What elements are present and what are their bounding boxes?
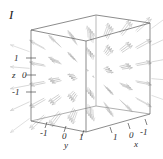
z-tick-label-0: 0 <box>22 71 27 80</box>
x-tick-label-minus1: -1 <box>140 128 148 137</box>
y-axis-label: y <box>64 141 68 150</box>
field-arrow-shaft <box>32 42 46 49</box>
vector-field-arrows <box>11 15 163 133</box>
field-arrow-shaft <box>11 102 29 111</box>
field-arrow-shaft <box>152 95 163 102</box>
x-tick-label-0: 0 <box>129 131 134 140</box>
x-tick-label-1: 1 <box>113 133 118 142</box>
axis-tick-marks <box>26 58 147 136</box>
field-arrow-shaft <box>11 119 29 133</box>
y-tick-label-1: 1 <box>79 133 84 142</box>
field-arrow-shaft <box>11 45 29 52</box>
z-axis-label: z <box>12 71 16 80</box>
field-arrow-head <box>92 53 93 54</box>
field-arrow-head <box>88 92 89 93</box>
x-tick-0 <box>128 123 130 129</box>
x-tick-minus1 <box>145 119 147 125</box>
y-tick-label-minus1: -1 <box>40 129 48 138</box>
field-arrow-shaft <box>30 40 44 48</box>
field-arrow-shaft <box>137 99 151 107</box>
x-axis-label: x <box>134 140 138 149</box>
field-arrow-shaft <box>152 79 163 81</box>
x-tick-1 <box>110 127 112 133</box>
vector-field-figure: I <box>0 0 163 159</box>
field-arrow-shaft <box>152 37 163 46</box>
field-arrow-shaft <box>152 58 163 61</box>
field-arrow-shaft <box>136 98 150 105</box>
field-arrow-shaft <box>49 36 59 45</box>
z-tick-label-1: 1 <box>14 54 19 63</box>
z-tick-label-minus1: -1 <box>12 88 20 97</box>
field-arrow-shaft <box>152 15 163 29</box>
field-arrow-shaft <box>120 100 129 108</box>
